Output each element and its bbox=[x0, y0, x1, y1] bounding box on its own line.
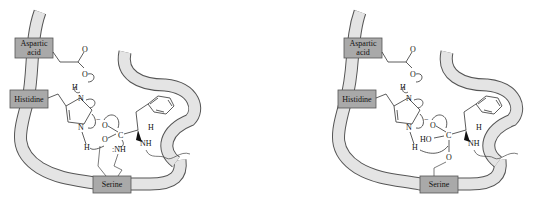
electron-arrow bbox=[416, 74, 422, 82]
svg-text:O: O bbox=[410, 45, 416, 54]
svg-text:O: O bbox=[430, 121, 436, 130]
svg-text:HO: HO bbox=[420, 135, 432, 144]
svg-text:O: O bbox=[82, 45, 88, 54]
aspartic-acid-box-right: Aspartic acid bbox=[344, 38, 382, 58]
svg-text:C: C bbox=[118, 131, 123, 140]
aspartic-acid-box-left: Aspartic acid bbox=[15, 38, 53, 58]
panel-right: Aspartic acid Histidine Serine O O H N N bbox=[338, 12, 518, 193]
svg-text:NH: NH bbox=[468, 139, 480, 148]
asp-side-chain-right: O O H bbox=[382, 45, 422, 92]
diagram-canvas: Aspartic acid Histidine Serine O O H N bbox=[0, 0, 535, 205]
electron-arrow bbox=[416, 114, 423, 128]
aspartic-label-line1: Aspartic bbox=[20, 39, 48, 48]
histidine-box-left: Histidine bbox=[10, 90, 48, 108]
electron-arrow bbox=[86, 99, 95, 108]
tetrahedral-intermediate-left: − O C O :NH bbox=[90, 115, 138, 176]
svg-text:C: C bbox=[446, 131, 451, 140]
svg-text:−: − bbox=[96, 115, 101, 124]
svg-text:O: O bbox=[102, 121, 108, 130]
histidine-box-right: Histidine bbox=[338, 90, 376, 108]
svg-text:N: N bbox=[406, 94, 412, 103]
tetrahedral-intermediate-right: − O C HO O bbox=[420, 115, 466, 176]
svg-text:−: − bbox=[424, 115, 429, 124]
serine-label: Serine bbox=[429, 180, 450, 189]
svg-text:O: O bbox=[410, 70, 416, 79]
asp-side-chain-left: O O H bbox=[53, 45, 94, 92]
svg-text:H: H bbox=[412, 143, 418, 152]
panel-left: Aspartic acid Histidine Serine O O H N bbox=[10, 12, 195, 193]
aspartic-label-line2: acid bbox=[356, 48, 369, 57]
serine-box-left: Serine bbox=[93, 176, 131, 193]
serine-box-right: Serine bbox=[420, 176, 458, 193]
electron-arrow bbox=[88, 114, 95, 128]
electron-arrow bbox=[90, 146, 104, 149]
svg-text:N: N bbox=[78, 94, 84, 103]
aspartic-label-line2: acid bbox=[27, 48, 40, 57]
electron-arrow bbox=[420, 146, 448, 153]
svg-text:O: O bbox=[102, 135, 108, 144]
aspartic-label-line1: Aspartic bbox=[349, 39, 377, 48]
his-imidazole-left: N N H bbox=[48, 86, 95, 152]
svg-text:H: H bbox=[476, 123, 482, 132]
svg-text:N: N bbox=[406, 123, 412, 132]
svg-text:N: N bbox=[78, 123, 84, 132]
svg-text:O: O bbox=[446, 153, 452, 162]
svg-text:O: O bbox=[82, 70, 88, 79]
svg-text:H: H bbox=[84, 143, 90, 152]
histidine-label: Histidine bbox=[14, 95, 44, 104]
electron-arrow bbox=[414, 99, 423, 108]
his-imidazole-right: N N H bbox=[376, 86, 423, 152]
electron-arrow bbox=[88, 74, 94, 82]
svg-text:NH: NH bbox=[140, 139, 152, 148]
histidine-label: Histidine bbox=[342, 95, 372, 104]
svg-text:H: H bbox=[148, 123, 154, 132]
serine-label: Serine bbox=[102, 180, 123, 189]
